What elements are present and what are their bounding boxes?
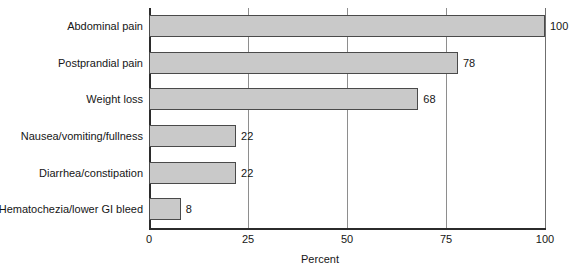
bar-row: 22 [149,118,545,154]
bar-row: 8 [149,191,545,227]
x-tick-label: 0 [146,233,152,245]
bar [149,162,236,184]
category-label: Hematochezia/lower GI bleed [0,198,143,220]
x-tick-label: 50 [341,233,353,245]
bar-value-label: 100 [545,15,568,37]
category-label: Postprandial pain [58,52,143,74]
bar-value-label: 22 [236,162,253,184]
category-label: Nausea/vomiting/fullness [21,125,143,147]
bar-row: 68 [149,81,545,117]
category-label: Abdominal pain [67,15,143,37]
bar-row: 78 [149,45,545,81]
bar-value-label: 68 [418,88,435,110]
bar [149,88,418,110]
x-axis-line [149,228,546,230]
x-tick-label: 25 [242,233,254,245]
bar [149,15,545,37]
bar [149,198,181,220]
bar-value-label: 78 [458,52,475,74]
x-tick-label: 100 [536,233,554,245]
bar [149,52,458,74]
gridline-100 [545,8,546,228]
bar-value-label: 22 [236,125,253,147]
bar-row: 22 [149,155,545,191]
bar [149,125,236,147]
bar-value-label: 8 [181,198,192,220]
x-axis-title: Percent [0,253,576,265]
category-label: Diarrhea/constipation [39,162,143,184]
bar-row: 100 [149,8,545,44]
x-axis-title-text: Percent [301,253,339,265]
x-tick-label: 75 [440,233,452,245]
plot-area: 100786822228 [149,8,545,228]
bar-chart: 100786822228 Abdominal painPostprandial … [0,0,576,277]
category-label: Weight loss [86,88,143,110]
